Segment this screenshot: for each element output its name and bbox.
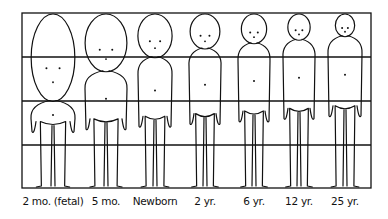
- eye-right: [347, 27, 349, 29]
- torso-arms: [283, 39, 315, 119]
- eye-right: [111, 49, 113, 51]
- eye-right: [257, 31, 259, 33]
- age-label-12yr: 12 yr.: [285, 195, 313, 207]
- eye-right: [208, 35, 210, 37]
- navel: [154, 90, 156, 92]
- legs: [192, 114, 219, 187]
- navel: [253, 80, 255, 82]
- eye-left: [341, 27, 343, 29]
- eye-right: [301, 29, 303, 31]
- legs: [90, 119, 122, 187]
- head: [190, 14, 220, 49]
- legs: [36, 122, 69, 188]
- age-label-25yr: 25 yr.: [331, 195, 359, 207]
- eye-left: [295, 29, 297, 31]
- age-label-2yr: 2 yr.: [194, 195, 215, 207]
- age-label-newborn: Newborn: [133, 195, 178, 207]
- proportions-diagram: [0, 0, 388, 219]
- navel: [52, 114, 54, 116]
- eye-left: [149, 40, 151, 42]
- eye-right: [159, 40, 161, 42]
- mouth: [105, 58, 107, 60]
- eye-left: [249, 31, 251, 33]
- torso-arms: [328, 36, 362, 117]
- head: [335, 14, 354, 37]
- head: [85, 14, 127, 72]
- torso-arms: [238, 43, 270, 122]
- legs: [141, 116, 169, 187]
- head: [31, 14, 75, 102]
- navel: [204, 84, 206, 86]
- head: [241, 14, 266, 44]
- mouth: [154, 47, 156, 49]
- age-label-fetal: 2 mo. (fetal): [22, 195, 83, 207]
- age-label-5mo: 5 mo.: [92, 195, 120, 207]
- eye-left: [99, 49, 101, 51]
- mouth: [204, 40, 206, 42]
- navel: [298, 77, 300, 79]
- legs: [286, 108, 313, 187]
- eye-right: [59, 67, 61, 69]
- mouth: [298, 34, 300, 36]
- mouth: [344, 31, 346, 33]
- head: [138, 14, 172, 58]
- age-label-6yr: 6 yr.: [243, 195, 264, 207]
- eye-left: [45, 67, 47, 69]
- navel: [344, 74, 346, 76]
- legs: [241, 111, 268, 187]
- mouth: [52, 81, 54, 83]
- eye-left: [200, 35, 202, 37]
- torso-arms: [189, 48, 221, 125]
- mouth: [253, 36, 255, 38]
- navel: [105, 98, 107, 100]
- legs: [331, 106, 359, 187]
- torso-arms: [31, 101, 75, 133]
- head: [288, 14, 310, 40]
- torso-arms: [85, 71, 127, 130]
- torso-arms: [138, 57, 172, 127]
